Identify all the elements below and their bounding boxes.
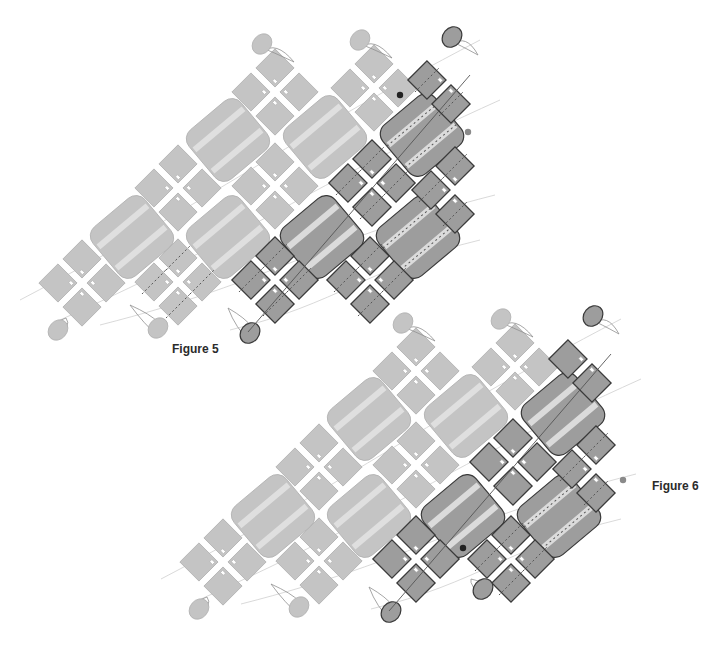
thread-end-dot: [465, 129, 471, 135]
drop-bead-body: [44, 316, 72, 344]
large-tile-bead: [181, 94, 274, 187]
thread-start-dot: [460, 545, 466, 551]
large-tile-bead: [322, 373, 415, 466]
drop-bead-body: [377, 598, 405, 626]
drop-bead-body: [185, 595, 213, 623]
drop-bead-body: [285, 593, 313, 621]
drop-bead: [185, 595, 213, 623]
drop-bead: [44, 316, 72, 344]
drop-bead: [469, 575, 497, 603]
drop-bead: [228, 308, 264, 347]
drop-bead-body: [236, 319, 264, 347]
diagram-canvas: [0, 0, 719, 649]
figure-5-caption: Figure 5: [172, 342, 219, 356]
drop-bead-body: [438, 23, 466, 51]
drop-bead-body: [469, 575, 497, 603]
beadwork-diagram: Figure 5 Figure 6: [0, 0, 719, 649]
large-tile-bead: [226, 470, 319, 563]
tile-body: [226, 470, 319, 563]
tile-body: [85, 191, 178, 284]
thread-end-dot: [620, 477, 626, 483]
figure-6-caption: Figure 6: [652, 479, 699, 493]
large-tile-bead: [85, 191, 178, 284]
drop-bead: [579, 302, 619, 334]
thread-start-dot: [397, 92, 403, 98]
drop-bead: [369, 587, 405, 626]
figure-5-illustration: [20, 23, 500, 347]
drop-bead-body: [144, 314, 172, 342]
drop-bead-body: [579, 302, 607, 330]
figure-6-illustration: [161, 302, 641, 626]
tile-body: [181, 94, 274, 187]
drop-bead: [438, 23, 478, 55]
tile-body: [322, 373, 415, 466]
